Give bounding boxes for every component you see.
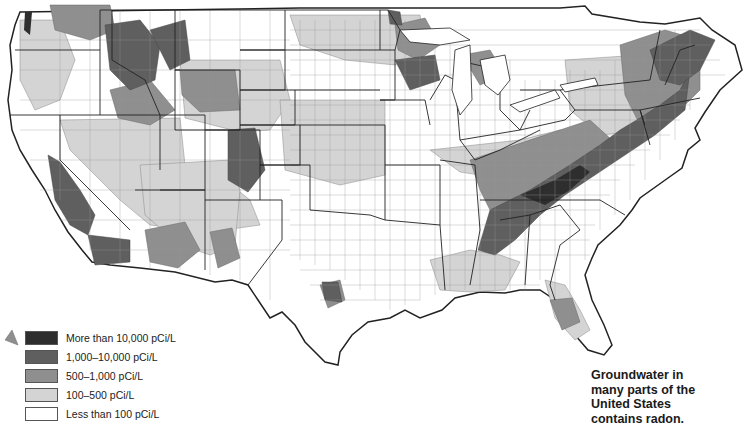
legend-label: 100–500 pCi/L bbox=[66, 389, 134, 401]
legend-swatch bbox=[25, 388, 58, 402]
caption-line: Groundwater in bbox=[591, 368, 695, 383]
legend-label: More than 10,000 pCi/L bbox=[66, 332, 176, 344]
legend-label: 500–1,000 pCi/L bbox=[66, 370, 143, 382]
legend-swatch bbox=[25, 407, 58, 421]
legend-label: 1,000–10,000 pCi/L bbox=[66, 351, 158, 363]
legend-swatch bbox=[25, 350, 58, 364]
legend-item-500-1000: 500–1,000 pCi/L bbox=[25, 367, 176, 385]
legend-item-over-10000: More than 10,000 pCi/L bbox=[25, 329, 176, 347]
legend-item-100-500: 100–500 pCi/L bbox=[25, 386, 176, 404]
legend-swatch bbox=[25, 369, 58, 383]
caption-line: many parts of the bbox=[591, 383, 695, 398]
caption-line: United States bbox=[591, 397, 695, 412]
legend-item-1000-10000: 1,000–10,000 pCi/L bbox=[25, 348, 176, 366]
legend-label: Less than 100 pCi/L bbox=[66, 408, 159, 420]
legend-item-under-100: Less than 100 pCi/L bbox=[25, 405, 176, 423]
caption-line: contains radon. bbox=[591, 412, 695, 427]
legend-swatch bbox=[25, 331, 58, 345]
map-caption: Groundwater in many parts of the United … bbox=[591, 368, 695, 426]
legend: More than 10,000 pCi/L 1,000–10,000 pCi/… bbox=[25, 329, 176, 424]
